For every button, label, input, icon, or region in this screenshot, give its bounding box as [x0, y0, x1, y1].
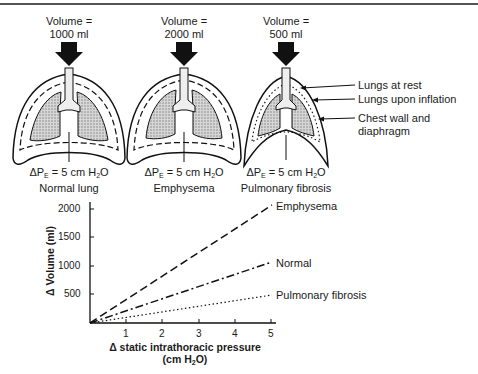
y-tick-1000: 1000 [58, 260, 80, 272]
condition-caption: Normal lung [14, 182, 124, 195]
series-fibrosis [90, 295, 272, 323]
volume-label: Volume = [256, 15, 316, 28]
volume-value: 500 ml [256, 28, 316, 41]
emphysema-lung-diagram [127, 42, 241, 164]
volume-value: 2000 ml [154, 28, 214, 41]
down-arrow-icon [272, 42, 300, 66]
pointer-chest-wall [320, 118, 355, 119]
series-label-fibrosis: Pulmonary fibrosis [276, 289, 366, 302]
y-axis-title: Δ Volume (ml) [44, 221, 56, 301]
normal-lung-diagram [13, 42, 125, 164]
x-tick-4: 4 [232, 328, 238, 340]
emphysema-volume-label: Volume = 2000 ml [154, 15, 214, 41]
x-axis-title: Δ static intrathoracic pressure (cm H2O) [100, 341, 270, 366]
series-normal [90, 262, 272, 323]
series-label-emphysema: Emphysema [276, 200, 337, 213]
y-tick-1500: 1500 [58, 231, 80, 243]
pressure-line: ΔPE = 5 cm H2O [231, 166, 341, 182]
legend-chest-wall: Chest wall and diaphragm [358, 112, 430, 138]
y-tick-500: 500 [64, 288, 81, 300]
compliance-chart [90, 202, 276, 323]
x-tick-3: 3 [196, 328, 202, 340]
down-arrow-icon [170, 42, 198, 66]
y-tick-2000: 2000 [58, 203, 80, 215]
down-arrow-icon [55, 42, 83, 66]
normal-pressure-caption: ΔPE = 5 cm H2O Normal lung [14, 166, 124, 195]
fibrosis-lung-diagram [244, 42, 355, 166]
volume-label: Volume = [39, 15, 99, 28]
x-tick-2: 2 [159, 328, 165, 340]
pressure-line: ΔPE = 5 cm H2O [14, 166, 124, 182]
condition-caption: Emphysema [129, 182, 239, 195]
x-tick-5: 5 [268, 328, 274, 340]
pointer-lungs-at-rest [302, 85, 355, 88]
condition-caption: Pulmonary fibrosis [231, 182, 341, 195]
pressure-line: ΔPE = 5 cm H2O [129, 166, 239, 182]
x-tick-1: 1 [123, 328, 129, 340]
fibrosis-pressure-caption: ΔPE = 5 cm H2O Pulmonary fibrosis [231, 166, 341, 195]
legend-lungs-at-rest: Lungs at rest [358, 79, 422, 92]
series-label-normal: Normal [276, 257, 311, 270]
normal-volume-label: Volume = 1000 ml [39, 15, 99, 41]
volume-label: Volume = [154, 15, 214, 28]
volume-value: 1000 ml [39, 28, 99, 41]
legend-lungs-upon-inflation: Lungs upon inflation [358, 93, 456, 106]
pointer-lungs-inflation [314, 99, 355, 100]
emphysema-pressure-caption: ΔPE = 5 cm H2O Emphysema [129, 166, 239, 195]
series-emphysema [90, 205, 272, 323]
fibrosis-volume-label: Volume = 500 ml [256, 15, 316, 41]
